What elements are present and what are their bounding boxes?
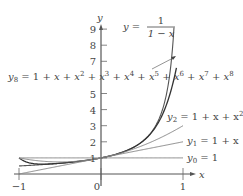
geometric-label: y = 1 1 − x [122,15,175,39]
svg-text:1: 1 [158,15,164,26]
y-tick-label: 4 [90,105,96,116]
y-tick-label: 2 [90,137,96,148]
x-axis-arrow-icon [190,172,196,176]
x-tick-label: −1 [12,181,27,192]
y-tick-label: 8 [90,40,96,51]
axes [14,24,196,186]
ticks: −10112345789 [12,24,187,192]
y-tick-label: 9 [90,24,96,35]
y8-label: y8 = 1 + x + x2 + x3 + x4 + x5 + x6 + x7… [7,56,234,84]
y-axis-label: y [96,12,103,23]
chart: −10112345789 y x y = 1 1 − x y8 = 1 + x … [0,0,243,196]
x-tick-label: 1 [180,181,186,192]
y0-label: y0 = 1 [186,152,218,165]
svg-text:y8 = 1 + x + x2 + x3 + x4 + x5: y8 = 1 + x + x2 + x3 + x4 + x5 + x6 + x7… [7,70,234,84]
y-tick-label: 5 [90,89,96,100]
svg-text:y =: y = [122,21,140,32]
y-tick-label: 3 [90,121,96,132]
x-axis-label: x [199,169,205,180]
y1-label: y1 = 1 + x [186,135,239,148]
curve-y8 [19,68,176,164]
x-tick-label: 0 [94,181,100,192]
svg-text:1 − x: 1 − x [148,28,175,39]
y2-label: y2 = 1 + x + x2 [166,110,243,124]
y-tick-label: 7 [90,56,96,67]
y-tick-label: 1 [90,153,96,164]
curve-y [19,28,174,166]
plot-area: −10112345789 y x y = 1 1 − x y8 = 1 + x … [0,0,243,196]
